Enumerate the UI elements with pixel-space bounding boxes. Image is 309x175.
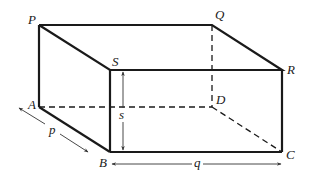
label-p: p — [48, 122, 56, 137]
hidden-edges — [39, 25, 282, 152]
edge-DC — [212, 107, 282, 152]
visible-edges — [39, 25, 282, 152]
cuboid-diagram: P Q R S A B C D p s q — [0, 0, 309, 175]
label-A: A — [27, 97, 36, 112]
label-s: s — [119, 107, 124, 122]
label-Q: Q — [215, 7, 225, 22]
label-S: S — [112, 54, 119, 69]
label-R: R — [286, 62, 295, 77]
label-D: D — [215, 92, 226, 107]
label-P: P — [27, 12, 36, 27]
label-q: q — [194, 155, 201, 170]
p-arrow-lower — [60, 134, 88, 152]
top-face — [39, 25, 282, 70]
label-B: B — [99, 155, 107, 170]
label-C: C — [286, 147, 295, 162]
